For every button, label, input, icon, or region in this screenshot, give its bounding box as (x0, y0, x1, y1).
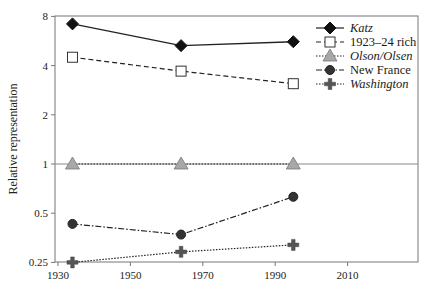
triangle-gray-marker-icon (65, 157, 79, 169)
x-axis: 19301950197019902010 (47, 262, 359, 281)
legend-label: 1923–24 rich (350, 35, 417, 49)
triangle-gray-marker-icon (286, 157, 300, 169)
circle-filled-marker-icon (177, 230, 186, 239)
square-open-marker-icon (67, 52, 77, 62)
series-olson-olsen (65, 157, 300, 169)
diamond-filled-marker-icon (324, 22, 336, 34)
square-open-marker-icon (176, 66, 186, 76)
y-tick-label: 0.5 (34, 207, 48, 219)
legend-label: Katz (349, 21, 373, 35)
diamond-filled-marker-icon (175, 40, 187, 52)
legend-label: New France (350, 63, 411, 77)
cross-marker-icon (325, 79, 336, 90)
line-chart: 84210.50.25 19301950197019902010 Relativ… (0, 0, 430, 291)
cross-marker-icon (288, 239, 299, 250)
circle-filled-marker-icon (289, 192, 298, 201)
triangle-gray-marker-icon (174, 157, 188, 169)
y-tick-label: 4 (43, 60, 49, 72)
legend-label: Olson/Olsen (350, 49, 413, 63)
diamond-filled-marker-icon (66, 18, 78, 30)
y-axis-title: Relative representation (6, 84, 20, 195)
legend-item: Olson/Olsen (316, 49, 413, 63)
diamond-filled-marker-icon (287, 36, 299, 48)
x-tick-label: 1970 (192, 269, 215, 281)
series-katz (66, 18, 299, 52)
x-tick-label: 1950 (119, 269, 142, 281)
series-1923-24-rich (67, 52, 298, 88)
y-tick-label: 8 (43, 10, 49, 22)
x-tick-label: 1990 (264, 269, 287, 281)
series-new-france (68, 192, 298, 239)
triangle-gray-marker-icon (323, 49, 337, 61)
cross-marker-icon (176, 246, 187, 257)
circle-filled-marker-icon (326, 66, 335, 75)
legend-item: 1923–24 rich (316, 35, 417, 49)
cross-marker-icon (67, 257, 78, 268)
series-lines (65, 18, 300, 268)
circle-filled-marker-icon (68, 219, 77, 228)
series-washington (67, 239, 299, 268)
legend: Katz1923–24 richOlson/OlsenNew FranceWas… (316, 21, 417, 91)
square-open-marker-icon (288, 79, 298, 89)
legend-item: Washington (316, 77, 409, 91)
x-tick-label: 2010 (337, 269, 360, 281)
y-axis: 84210.50.25 (29, 10, 55, 268)
x-tick-label: 1930 (47, 269, 70, 281)
legend-item: Katz (316, 21, 373, 35)
y-tick-label: 1 (43, 158, 49, 170)
legend-item: New France (316, 63, 411, 77)
y-tick-label: 0.25 (29, 256, 49, 268)
y-tick-label: 2 (43, 109, 49, 121)
square-open-marker-icon (325, 37, 335, 47)
legend-label: Washington (350, 77, 409, 91)
